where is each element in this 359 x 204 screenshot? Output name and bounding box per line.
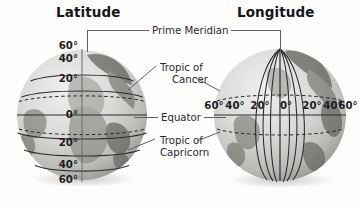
longitude-tick-60-east: 60°	[337, 100, 359, 111]
longitude-globe	[209, 47, 351, 188]
longitude-tick-60-west: 60°	[203, 100, 225, 111]
prime-meridian-leader-right-drop	[280, 30, 281, 52]
equator-leader-right	[204, 117, 226, 118]
longitude-tick-0-prime-meridian: 0°	[277, 100, 295, 111]
latitude-tick-20-north: 20°	[50, 73, 78, 84]
longitude-tick-20-west: 20°	[249, 100, 271, 111]
prime-meridian-leader-right	[231, 30, 281, 31]
prime-meridian-leader-left-drop	[87, 30, 88, 52]
latitude-tick-0-equator: 0°	[58, 109, 78, 120]
tropic-of-cancer-leaders	[128, 58, 220, 96]
longitude-tick-20-east: 20°	[301, 100, 323, 111]
latitude-tick-40-south: 40°	[50, 159, 78, 170]
longitude-panel-title: Longitude	[237, 4, 315, 20]
latitude-tick-60-south: 60°	[50, 174, 78, 185]
longitude-globe-graphic	[209, 47, 351, 188]
prime-meridian-leader-left	[87, 30, 149, 31]
latitude-panel-title: Latitude	[56, 4, 120, 20]
latitude-tick-60-north: 60°	[50, 40, 78, 51]
latitude-tick-40-north: 40°	[50, 53, 78, 64]
longitude-tick-40-west: 40°	[224, 100, 246, 111]
equator-leader-left	[134, 117, 158, 118]
latitude-longitude-diagram: Latitude Longitude	[0, 0, 359, 204]
prime-meridian-label: Prime Meridian	[152, 25, 229, 37]
latitude-tick-20-south: 20°	[50, 137, 78, 148]
equator-label: Equator	[161, 112, 201, 124]
tropic-of-capricorn-leaders	[128, 132, 220, 162]
